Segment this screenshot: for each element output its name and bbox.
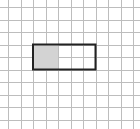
- grid-diagram: [0, 0, 140, 129]
- grid-lines: [0, 0, 140, 129]
- shaded-region: [33, 45, 58, 70]
